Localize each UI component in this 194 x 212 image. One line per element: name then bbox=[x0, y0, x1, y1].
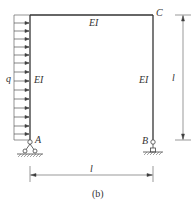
height-l-label: l bbox=[172, 72, 175, 83]
load-arrows bbox=[14, 22, 29, 136]
load-q-label: q bbox=[6, 73, 11, 84]
right-column-ei-label: EI bbox=[138, 74, 149, 85]
frame bbox=[30, 15, 153, 140]
figure-caption: (b) bbox=[92, 188, 104, 200]
ground-hatch-b bbox=[144, 152, 162, 155]
distributed-load bbox=[14, 15, 30, 140]
node-a-label: A bbox=[34, 134, 42, 145]
node-b-label: B bbox=[142, 135, 148, 146]
ground-hatch-a bbox=[18, 154, 42, 157]
node-c-label: C bbox=[156, 7, 163, 18]
beam-ei-label: EI bbox=[88, 17, 99, 28]
height-dimension bbox=[175, 15, 191, 140]
portal-frame-diagram: EI EI EI q C A B l l (b) bbox=[0, 0, 194, 212]
span-l-label: l bbox=[90, 163, 93, 174]
left-column-ei-label: EI bbox=[33, 74, 44, 85]
